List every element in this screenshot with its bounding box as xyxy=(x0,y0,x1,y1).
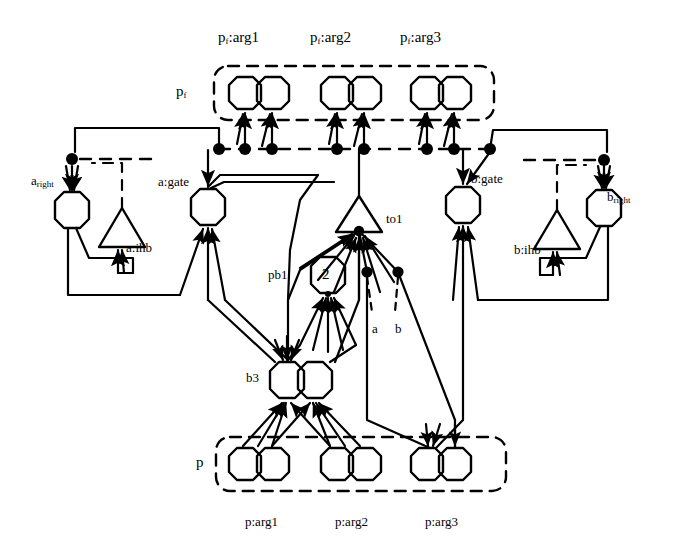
a-right-octagon xyxy=(55,192,89,228)
a-gate-to-b3-wires xyxy=(208,300,288,362)
b3-octagon-pair xyxy=(270,362,332,398)
p-group-label: p xyxy=(196,455,204,470)
node-a-label: a xyxy=(372,322,378,335)
b-right-incoming-arrows xyxy=(598,166,610,188)
mid-dot-b-dashed xyxy=(395,277,398,312)
p-arg2-octagon-pair xyxy=(321,448,381,480)
a-ihb-label: a:ihb xyxy=(126,241,152,254)
b-ihb-dashed-link xyxy=(557,165,586,210)
right-outer-wire xyxy=(490,130,607,152)
b-ihb-label: b:ihb xyxy=(514,243,541,256)
pb1-label: pb1 xyxy=(268,268,288,281)
to1-left-connector xyxy=(288,175,318,300)
conceptual-graph-svg xyxy=(0,0,683,550)
a-gate-incoming-lower-arrows xyxy=(180,228,225,300)
pf-arg3-label: pf:arg3 xyxy=(400,30,441,46)
a-gate-label: a:gate xyxy=(158,175,189,188)
pf-arg1-label: pf:arg1 xyxy=(218,30,259,46)
b-gate-long-wires xyxy=(436,300,540,448)
p-arg1-label: p:arg1 xyxy=(245,515,278,528)
pf-group-label: pf xyxy=(176,84,187,100)
p-arg3-octagon-pair xyxy=(411,448,471,480)
b-ihb-triangle xyxy=(534,210,580,249)
b-gate-incoming-lower-arrows xyxy=(453,226,478,305)
bus-dots xyxy=(66,143,610,166)
b-ihb-incoming-arrows xyxy=(540,252,560,275)
b-gate-octagon xyxy=(446,187,480,223)
b3-label: b3 xyxy=(246,371,259,384)
bus-to-pf-arrows xyxy=(237,113,454,146)
node-b-label: b xyxy=(395,322,402,335)
mid-dots xyxy=(361,266,403,277)
pb1-feed-lines xyxy=(288,345,356,362)
pf-arg3-octagon-pair xyxy=(411,77,471,109)
pf-arg2-label: pf:arg2 xyxy=(310,30,351,46)
pf-arg1-octagon-pair xyxy=(229,77,289,109)
p-arg2-label: p:arg2 xyxy=(335,515,368,528)
b3-incoming-bottom-fan-right xyxy=(272,403,360,446)
a-right-label: aright xyxy=(31,174,54,189)
b-right-label: bright xyxy=(607,190,631,205)
left-outer-wire xyxy=(75,128,219,152)
b3-incoming-top-arrows xyxy=(275,336,299,360)
diagram-canvas: pf:arg1 pf:arg2 pf:arg3 pf p p:arg1 p:ar… xyxy=(0,0,683,550)
p-arg3-label: p:arg3 xyxy=(425,515,458,528)
pb1-hub-dot xyxy=(325,291,331,297)
p-arg1-octagon-pair xyxy=(229,448,289,480)
b3-incoming-bottom-fan-left xyxy=(243,403,330,446)
to1-incoming-fan xyxy=(300,234,394,300)
a-ihb-dashed-link xyxy=(92,163,122,208)
b-gate-label: b:gate xyxy=(471,172,503,185)
a-right-incoming-arrows xyxy=(66,166,78,190)
a-gate-octagon xyxy=(191,189,225,225)
pb1-value-label: 2 xyxy=(322,267,330,282)
to1-label: to1 xyxy=(386,212,403,225)
a-gate-incoming-arrows xyxy=(208,150,334,188)
pb1-incoming-fan xyxy=(300,298,356,352)
pf-arg2-octagon-pair xyxy=(321,77,381,109)
